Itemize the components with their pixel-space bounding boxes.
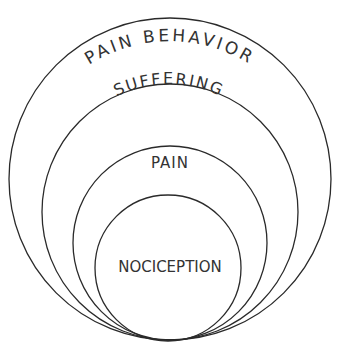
label-nociception: NOCICEPTION — [118, 258, 222, 276]
label-suffering: SUFFERING — [111, 69, 228, 100]
nested-circles-diagram: PAIN BEHAVIOR SUFFERING PAIN NOCICEPTION — [0, 0, 341, 350]
circle-pain-behavior — [9, 18, 331, 340]
circle-pain — [73, 146, 267, 340]
circle-suffering — [42, 84, 298, 340]
label-pain: PAIN — [151, 154, 189, 172]
label-pain-behavior: PAIN BEHAVIOR — [81, 25, 259, 68]
